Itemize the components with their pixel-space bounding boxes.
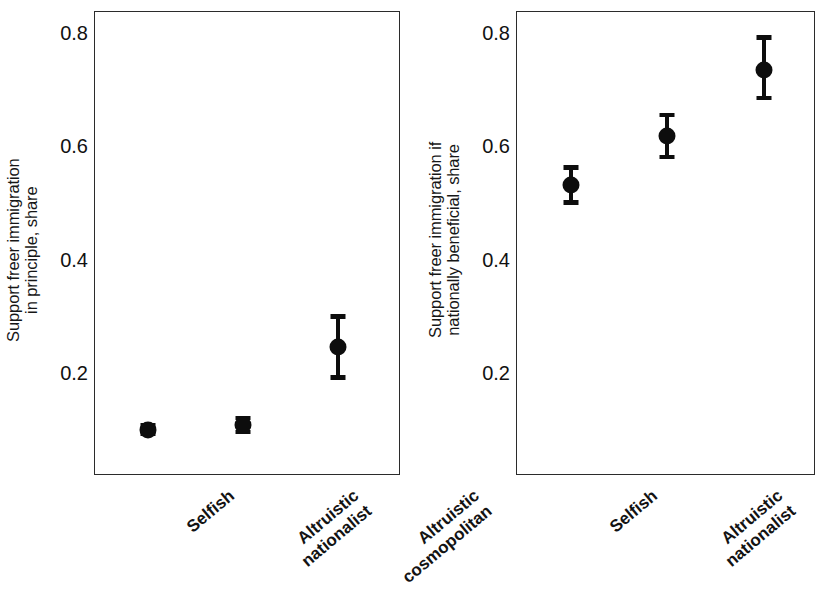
y-axis-label-right: Support freer immigration if nationally … — [426, 142, 463, 338]
x-category-label-right-1: Altruisticnationalist — [709, 486, 800, 571]
y-tick-label-right-3: 0.8 — [482, 22, 510, 45]
x-category-label-right-0: Selfish — [606, 486, 662, 537]
y-tick-label-left-1: 0.4 — [60, 248, 88, 271]
figure-canvas: Support freer immigration in principle, … — [0, 0, 819, 599]
y-tick-label-right-2: 0.6 — [482, 135, 510, 158]
y-axis-label-right-line1: Support freer immigration if — [426, 142, 444, 338]
x-category-line: Selfish — [183, 486, 238, 536]
plot-frame-left — [94, 11, 400, 475]
plot-frame-right — [516, 11, 815, 475]
y-axis-label-left: Support freer immigration in principle, … — [4, 158, 41, 342]
y-tick-label-left-0: 0.2 — [60, 362, 88, 385]
chart-panel-left: Support freer immigration in principle, … — [0, 0, 410, 599]
y-tick-label-left-3: 0.8 — [60, 22, 88, 45]
x-category-label-left-1: Altruisticnationalist — [285, 486, 376, 571]
x-category-label-left-0: Selfish — [183, 486, 239, 537]
x-category-label-right-2: Altruisticcosmopolitan — [812, 486, 819, 588]
y-tick-label-right-0: 0.2 — [482, 362, 510, 385]
x-category-line: nationalist — [298, 501, 376, 571]
y-axis-label-right-line2: nationally beneficial, share — [444, 142, 462, 338]
y-tick-label-right-1: 0.4 — [482, 248, 510, 271]
y-tick-label-left-2: 0.6 — [60, 135, 88, 158]
x-category-line: Altruistic — [294, 486, 363, 548]
y-axis-label-left-line1: Support freer immigration — [4, 158, 22, 342]
x-category-line: nationalist — [722, 501, 800, 571]
x-category-line: Altruistic — [718, 486, 787, 548]
y-axis-label-left-line2: in principle, share — [22, 158, 40, 342]
chart-panel-right: Support freer immigration if nationally … — [409, 0, 819, 599]
x-category-line: Selfish — [606, 486, 661, 536]
